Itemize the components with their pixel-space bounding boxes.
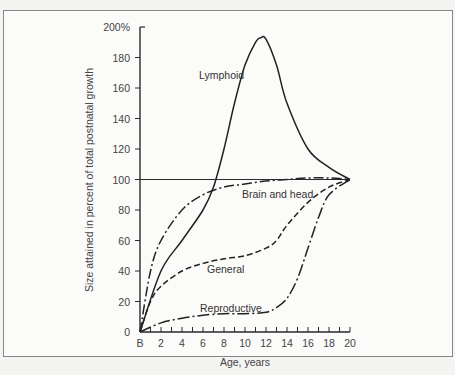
x-tick-label: 16 — [302, 337, 314, 349]
y-tick-label: 20 — [118, 296, 130, 308]
y-tick-label: 0 — [124, 326, 130, 338]
x-tick-label: 14 — [281, 337, 293, 349]
y-axis-title: Size attained in percent of total postna… — [83, 68, 95, 292]
y-tick-label: 100 — [112, 174, 130, 186]
x-tick-label: B — [136, 337, 143, 349]
label-general: General — [207, 263, 244, 275]
label-reproductive: Reproductive — [200, 302, 262, 314]
y-tick-label: 80 — [118, 204, 130, 216]
x-tick-label: 4 — [179, 337, 185, 349]
x-axis-title: Age, years — [220, 356, 270, 368]
y-tick-label: 60 — [118, 235, 130, 247]
y-tick-label: 200% — [103, 21, 130, 33]
y-tick-label: 160 — [112, 82, 130, 94]
x-tick-label: 12 — [260, 337, 272, 349]
y-tick-label: 120 — [112, 143, 130, 155]
label-brain-and-head: Brain and head — [242, 188, 313, 200]
y-tick-label: 40 — [118, 265, 130, 277]
x-tick-label: 18 — [323, 337, 335, 349]
y-tick-label: 140 — [112, 113, 130, 125]
x-tick-label: 2 — [158, 337, 164, 349]
x-tick-label: 20 — [344, 337, 356, 349]
x-tick-label: 6 — [200, 337, 206, 349]
x-tick-label: 8 — [221, 337, 227, 349]
x-tick-label: 10 — [239, 337, 251, 349]
growth-chart: 020406080100120140160180200%B24681012141… — [0, 0, 455, 375]
label-lymphoid: Lymphoid — [199, 69, 244, 81]
y-tick-label: 180 — [112, 52, 130, 64]
curves — [140, 37, 350, 332]
